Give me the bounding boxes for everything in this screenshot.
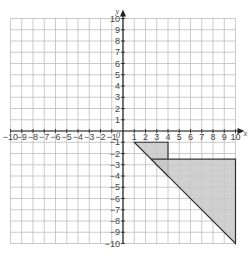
y-tick-label: 6 [115, 59, 120, 69]
x-tick-label: 1 [132, 132, 137, 142]
y-tick-label: 9 [115, 25, 120, 35]
x-axis-label: x [243, 129, 248, 138]
y-tick-label: −3 [110, 160, 120, 170]
shapes [134, 142, 235, 243]
y-tick-label: −2 [110, 149, 120, 159]
x-tick-label: 3 [154, 132, 159, 142]
x-tick-label: 8 [210, 132, 215, 142]
y-tick-label: 7 [115, 47, 120, 57]
x-tick-label: −8 [28, 132, 38, 142]
x-tick-label: −2 [95, 132, 105, 142]
x-tick-label: −9 [17, 132, 27, 142]
coordinate-grid: −10−9−8−7−6−5−4−3−2−11234567891010987654… [0, 0, 251, 262]
y-tick-label: −5 [110, 182, 120, 192]
y-tick-label: 5 [115, 70, 120, 80]
x-tick-label: 9 [222, 132, 227, 142]
x-tick-label: −4 [73, 132, 83, 142]
y-tick-label: 8 [115, 36, 120, 46]
x-tick-label: −7 [39, 132, 49, 142]
y-tick-label: −9 [110, 227, 120, 237]
x-tick-label: 2 [143, 132, 148, 142]
y-tick-label: −7 [110, 205, 120, 215]
y-tick-label: −6 [110, 194, 120, 204]
y-tick-label: −10 [105, 239, 120, 249]
x-tick-label: −3 [84, 132, 94, 142]
y-tick-label: 2 [115, 104, 120, 114]
x-tick-label: 5 [177, 132, 182, 142]
y-tick-label: −8 [110, 216, 120, 226]
x-tick-label: −5 [62, 132, 72, 142]
y-axis-label: y [114, 7, 119, 16]
y-tick-label: 4 [115, 81, 120, 91]
x-tick-label: −6 [50, 132, 60, 142]
y-axis-arrow-icon [120, 10, 126, 17]
x-tick-label: 4 [165, 132, 170, 142]
x-tick-label: 6 [188, 132, 193, 142]
y-tick-label: 3 [115, 92, 120, 102]
x-tick-label: 10 [230, 132, 240, 142]
origin-label: 0 [116, 131, 120, 140]
large-triangle [151, 159, 235, 243]
x-tick-label: 7 [199, 132, 204, 142]
y-tick-label: 1 [115, 115, 120, 125]
y-tick-label: −4 [110, 171, 120, 181]
